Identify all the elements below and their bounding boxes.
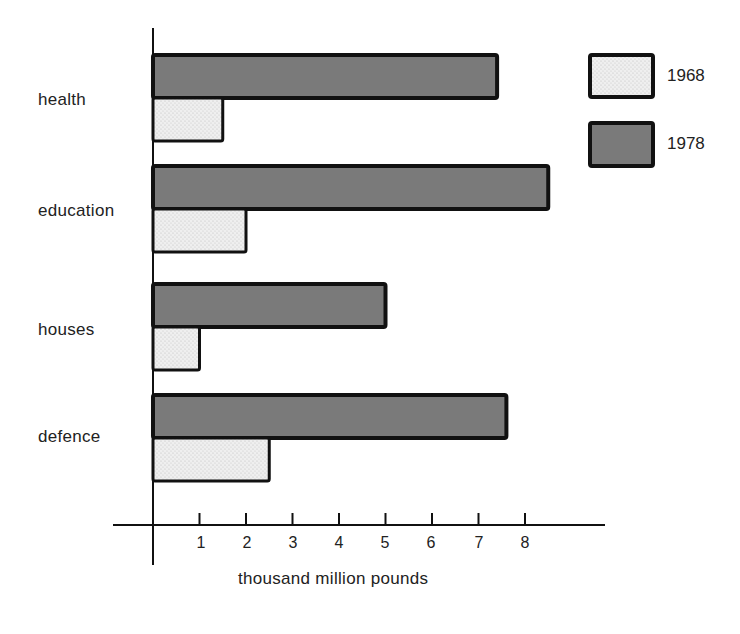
x-tick-label: 1 — [197, 534, 206, 552]
x-tick-label: 5 — [381, 534, 390, 552]
bar-education-1978 — [153, 166, 548, 209]
x-tick-label: 3 — [289, 534, 298, 552]
legend-label-1978: 1978 — [667, 134, 705, 154]
x-axis-title: thousand million pounds — [238, 569, 428, 589]
bar-defence-1968 — [153, 438, 269, 481]
legend-label-1968: 1968 — [667, 66, 705, 86]
bar-houses-1978 — [153, 284, 386, 327]
bar-chart — [0, 0, 740, 634]
category-label-education: education — [38, 201, 114, 221]
category-label-health: health — [38, 90, 86, 110]
x-tick-label: 4 — [335, 534, 344, 552]
bar-health-1978 — [153, 55, 497, 98]
bar-defence-1978 — [153, 395, 506, 438]
x-tick-label: 2 — [243, 534, 252, 552]
legend-swatch-1978 — [590, 123, 653, 166]
bar-houses-1968 — [153, 327, 200, 370]
bars — [153, 55, 548, 481]
x-tick-label: 7 — [475, 534, 484, 552]
bar-education-1968 — [153, 209, 246, 252]
x-axis-ticks — [200, 513, 526, 525]
bar-health-1968 — [153, 98, 223, 141]
legend-swatch-1968 — [590, 55, 653, 97]
x-tick-label: 6 — [427, 534, 436, 552]
category-label-houses: houses — [38, 320, 95, 340]
category-label-defence: defence — [38, 427, 101, 447]
x-tick-label: 8 — [521, 534, 530, 552]
